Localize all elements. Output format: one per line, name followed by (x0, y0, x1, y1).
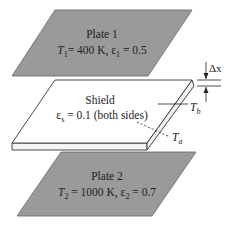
shield: Shield εs = 0.1 (both sides) Tb Ta (12, 80, 200, 150)
shield-label: Shield (85, 94, 115, 106)
delta-x-label: Δx (209, 62, 222, 74)
thickness-dimension: Δx (197, 62, 222, 102)
arrow-down-head-icon (204, 73, 209, 79)
arrow-up-head-icon (204, 87, 209, 93)
plate-2: Plate 2 T2 = 1000 K, ε2 = 0.7 (17, 152, 196, 216)
tb-label: Tb (190, 101, 200, 116)
plate-2-label: Plate 2 (91, 170, 123, 182)
plate-1-label: Plate 1 (86, 28, 118, 40)
plate-1: Plate 1 T1= 400 K, ε1 = 0.5 (12, 10, 192, 76)
diagram-canvas: Plate 1 T1= 400 K, ε1 = 0.5 Shield εs = … (0, 0, 231, 225)
ta-label: Ta (172, 131, 182, 146)
